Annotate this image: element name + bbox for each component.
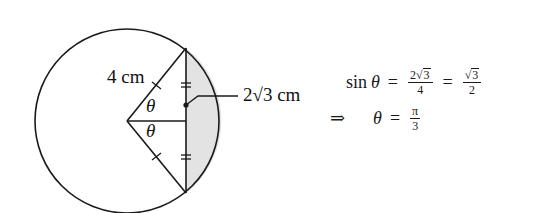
fraction-pi-over-3: π 3 (410, 105, 420, 132)
theta-variable: θ (373, 108, 382, 129)
equals-sign: = (443, 72, 453, 93)
angle-label-top: θ (146, 95, 155, 117)
sqrt-symbol: √ (465, 69, 472, 81)
radicand: 3 (423, 68, 431, 81)
radius-label: 4 cm (107, 66, 144, 88)
angle-label-bottom: θ (146, 120, 155, 142)
numerator: π (410, 105, 420, 119)
equation-theta-value: ⇒ θ = π 3 (330, 100, 422, 136)
radicand: 3 (471, 68, 479, 81)
equals-sign: = (390, 108, 400, 129)
half-chord-label: 2√3 cm (243, 84, 300, 106)
equals-sign: = (388, 72, 398, 93)
denominator: 2 (469, 83, 475, 96)
equation-sin-theta: sin θ = 2√3 4 = √3 2 (346, 64, 483, 100)
sin-function: sin (346, 72, 367, 93)
circle-segment-diagram (0, 0, 554, 213)
denominator: 4 (417, 83, 423, 96)
implies-arrow: ⇒ (330, 107, 345, 129)
sqrt-symbol: √ (416, 69, 423, 81)
theta-variable: θ (371, 72, 380, 93)
fraction-2-root3-over-4: 2√3 4 (408, 68, 433, 96)
denominator: 3 (412, 119, 418, 132)
fraction-root3-over-2: √3 2 (463, 68, 482, 96)
